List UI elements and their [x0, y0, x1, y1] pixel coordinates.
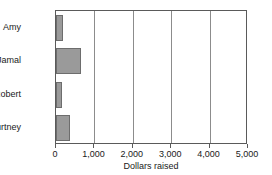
x-axis-tick: [93, 144, 94, 148]
bar-row: [56, 48, 248, 74]
bar: [56, 115, 70, 141]
x-axis-tick-label: 0: [33, 149, 77, 159]
x-axis-tick-label: 5,000: [225, 149, 269, 159]
y-axis-label-jamal: Jamal: [0, 55, 21, 65]
x-axis-tick-label: 4,000: [187, 149, 231, 159]
x-axis-tick-label: 1,000: [71, 149, 115, 159]
y-axis-label-amy: Amy: [0, 22, 21, 32]
x-axis-tick-label: 2,000: [110, 149, 154, 159]
bar-row: [56, 115, 248, 141]
x-axis-tick: [55, 144, 56, 148]
x-axis-tick: [170, 144, 171, 148]
bar-chart: AmyJamalRobertCourtney 01,0002,0003,0004…: [0, 0, 272, 175]
plot-area: [55, 10, 247, 144]
bar: [56, 82, 62, 108]
x-axis-tick: [209, 144, 210, 148]
bar-row: [56, 82, 248, 108]
bar-row: [56, 15, 248, 41]
x-axis-tick-label: 3,000: [148, 149, 192, 159]
x-axis-tick: [132, 144, 133, 148]
x-axis-tick: [247, 144, 248, 148]
y-axis-label-robert: Robert: [0, 89, 21, 99]
y-axis-label-courtney: Courtney: [0, 122, 21, 132]
bar: [56, 15, 63, 41]
bar: [56, 48, 81, 74]
x-axis-title: Dollars raised: [55, 161, 247, 172]
